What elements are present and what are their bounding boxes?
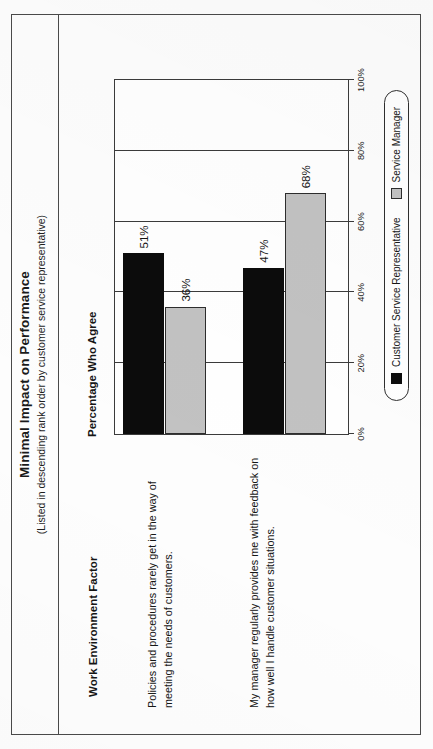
bar-row: 36% [165, 80, 206, 434]
bar-sm-row0 [165, 307, 206, 434]
bar-row: 47% [243, 80, 284, 434]
tick-label-100: 100% [356, 68, 366, 92]
tick-mark-60 [349, 221, 354, 222]
bar-csr-row0 [123, 253, 164, 434]
tick-mark-100 [349, 79, 354, 80]
legend-label-csr: Customer Service Representative [391, 217, 402, 367]
bar-value-label: 51% [138, 225, 150, 253]
x-axis: 0%20%40%60%80%100% [349, 79, 375, 435]
title-block: Minimal Impact on Performance (Listed in… [11, 14, 58, 735]
percentage-column-header: Percentage Who Agree [86, 312, 98, 437]
bar-sm-row1 [285, 193, 326, 434]
legend-swatch-csr [391, 373, 402, 384]
bar-value-label: 36% [180, 279, 192, 307]
tick-mark-80 [349, 150, 354, 151]
tick-mark-20 [349, 362, 354, 363]
legend-label-sm: Service Manager [391, 107, 402, 183]
legend-item-csr: Customer Service Representative [391, 217, 402, 384]
factor-label-row-0: Policies and procedures rarely get in th… [145, 456, 176, 708]
tick-label-20: 20% [356, 354, 366, 373]
factor-column-header: Work Environment Factor [87, 557, 99, 697]
tick-label-60: 60% [356, 212, 366, 231]
tick-label-0: 0% [356, 427, 366, 440]
bar-row: 68% [285, 80, 326, 434]
factor-label-column: Work Environment Factor Policies and pro… [59, 443, 432, 735]
plot-column: Percentage Who Agree 51%36%47%68% 0%20%4… [59, 14, 432, 443]
legend-item-sm: Service Manager [391, 107, 402, 200]
tick-label-40: 40% [356, 283, 366, 302]
legend-swatch-sm [391, 188, 402, 199]
page-subtitle: (Listed in descending rank order by cust… [34, 14, 49, 735]
rotated-page-wrapper: Minimal Impact on Performance (Listed in… [0, 0, 433, 749]
chart-body: Work Environment Factor Policies and pro… [59, 14, 432, 735]
factor-label-row-1: My manager regularly provides me with fe… [247, 456, 278, 708]
tick-mark-40 [349, 291, 354, 292]
bar-csr-row1 [243, 268, 284, 434]
bar-value-label: 47% [258, 240, 270, 268]
scanned-slide-page: Minimal Impact on Performance (Listed in… [0, 0, 433, 749]
tick-label-80: 80% [356, 142, 366, 161]
page-title: Minimal Impact on Performance [16, 14, 33, 735]
chart-legend: Customer Service RepresentativeService M… [384, 90, 409, 401]
bar-row: 51% [123, 80, 164, 434]
bar-value-label: 68% [300, 165, 312, 193]
tick-mark-0 [349, 433, 354, 434]
plot-area: 51%36%47%68% [114, 79, 349, 435]
